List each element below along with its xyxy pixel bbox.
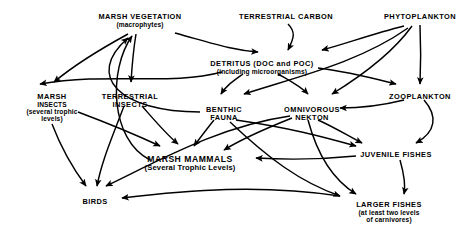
node-terrestrial-carbon[interactable]: TERRESTRIAL CARBON: [239, 13, 333, 21]
edge-detritus-to-omnivorous-nekton: [278, 74, 308, 94]
edge-phytoplankton-to-zooplankton: [420, 25, 421, 84]
node-detritus[interactable]: DETRITUS (DOC and POC) (including microo…: [210, 60, 313, 75]
node-title: TERRESTRIAL CARBON: [239, 13, 333, 21]
node-terrestrial-insects[interactable]: TERRESTRIAL INSECTS: [102, 93, 159, 109]
node-subtitle: FAUNA: [206, 114, 242, 122]
node-title: ZOOPLANKTON: [389, 93, 451, 101]
node-marsh-mammals[interactable]: MARSH MAMMALS (Several Trophic Levels): [144, 155, 235, 172]
edge-benthic-fauna-to-marsh-mammals: [194, 120, 214, 146]
node-title: BIRDS: [82, 198, 107, 206]
node-birds[interactable]: BIRDS: [82, 198, 107, 206]
edge-juvenile-fishes-to-larger-fishes: [400, 160, 405, 194]
node-omnivorous-nekton[interactable]: OMNIVOROUS NEKTON: [284, 106, 340, 122]
edge-larger-fishes-to-birds: [122, 189, 340, 198]
node-title: PHYTOPLANKTON: [384, 13, 456, 21]
node-subtitle: (including microorganisms): [210, 68, 313, 75]
node-title: JUVENILE FISHES: [360, 151, 432, 159]
edge-zooplankton-to-juvenile-fishes: [416, 100, 433, 143]
node-subtitle: INSECTS: [102, 101, 159, 109]
edge-detritus-to-benthic-fauna: [221, 74, 243, 94]
node-subtitle: (at least two levelsof carnivores): [356, 209, 422, 223]
edge-marsh-vegetation-to-detritus: [175, 33, 258, 52]
edge-phytoplankton-to-omnivorous-nekton: [332, 26, 412, 94]
edge-zooplankton-to-omnivorous-nekton: [340, 100, 404, 108]
node-zooplankton[interactable]: ZOOPLANKTON: [389, 93, 451, 101]
node-phytoplankton[interactable]: PHYTOPLANKTON: [384, 13, 456, 21]
node-subtitle: INSECTS(several trophiclevels): [26, 101, 77, 122]
node-title: DETRITUS (DOC and POC): [210, 60, 313, 68]
node-marsh-vegetation[interactable]: MARSH VEGETATION (macrophytes): [98, 13, 181, 28]
food-web-diagram: MARSH VEGETATION (macrophytes) TERRESTRI…: [0, 0, 472, 242]
node-title: MARSH: [26, 93, 77, 101]
node-subtitle: (Several Trophic Levels): [144, 164, 235, 172]
edge-terrestrial-insects-to-marsh-mammals: [142, 106, 178, 144]
edge-omnivorous-nekton-to-juvenile-fishes: [318, 120, 362, 143]
node-subtitle: (macrophytes): [98, 21, 181, 28]
edge-marsh-vegetation-to-terrestrial-insects: [131, 34, 136, 82]
edge-detritus-to-zooplankton: [318, 68, 396, 84]
node-larger-fishes[interactable]: LARGER FISHES (at least two levelsof car…: [356, 201, 422, 223]
node-juvenile-fishes[interactable]: JUVENILE FISHES: [360, 151, 432, 159]
node-marsh-insects[interactable]: MARSH INSECTS(several trophiclevels): [26, 93, 77, 122]
node-title: LARGER FISHES: [356, 201, 422, 209]
node-title: MARSH VEGETATION: [98, 13, 181, 21]
edge-terrestrial-carbon-to-detritus: [288, 24, 293, 50]
node-benthic-fauna[interactable]: BENTHIC FAUNA: [206, 106, 242, 122]
node-subtitle: NEKTON: [284, 114, 340, 122]
edge-marsh-insects-to-birds: [52, 124, 86, 186]
